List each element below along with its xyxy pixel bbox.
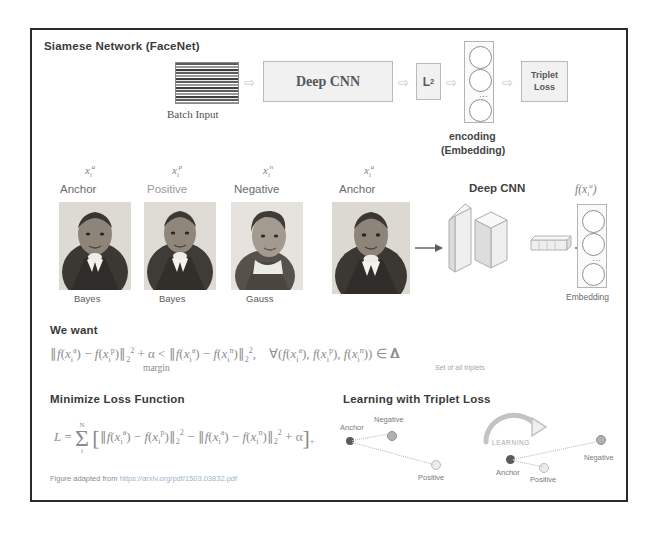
arrow-l2-to-encoding: ⇨ <box>446 76 457 89</box>
figure-title: Siamese Network (FaceNet) <box>44 40 200 52</box>
negative-portrait <box>231 202 303 290</box>
embedding-sublabel: (Embedding) <box>441 144 505 156</box>
batch-input-icon <box>175 62 239 104</box>
embedding-caption: Embedding <box>566 292 609 302</box>
we-want-heading: We want <box>50 324 98 336</box>
loss-equation: L = N Σ i [∥f(xia) − f(xip)∥22 − ∥f(xia)… <box>54 421 314 454</box>
before-positive-node <box>431 460 441 470</box>
embedding-unit <box>582 233 605 256</box>
encoder-input-role-label: Anchor <box>339 183 375 195</box>
triplet-loss-line2: Loss <box>534 82 555 93</box>
arrow-input-to-cnn: ⇨ <box>244 76 255 89</box>
after-anchor-label: Anchor <box>496 468 520 477</box>
triplet-after-diagram: Anchor Positive Negative <box>468 415 623 487</box>
embedding-output-variable: f(xia) <box>575 182 597 198</box>
loss-heading: Minimize Loss Function <box>50 393 185 405</box>
before-positive-label: Positive <box>418 473 444 482</box>
arrow-portrait-to-cnn <box>415 242 443 254</box>
positive-person-label: Bayes <box>159 293 185 304</box>
l2-subscript: 2 <box>430 77 434 86</box>
footer-prefix: Figure adapted from <box>50 474 120 483</box>
we-want-equation: ∥f(xia) − f(xip)∥22 + α < ∥f(xia) − f(xi… <box>50 346 400 364</box>
after-anchor-positive-link <box>513 460 543 467</box>
anchor-role-label: Anchor <box>60 183 96 195</box>
before-anchor-node <box>346 437 354 445</box>
margin-annotation: margin <box>143 363 170 373</box>
negative-variable: xin <box>263 163 273 178</box>
after-positive-node <box>539 463 549 473</box>
encoding-unit <box>469 46 492 69</box>
before-anchor-label: Anchor <box>340 423 364 432</box>
anchor-person-label: Bayes <box>74 293 100 304</box>
figure-canvas: Siamese Network (FaceNet) Batch Input ⇨ … <box>0 0 661 539</box>
set-of-triplets-annotation: Set of all triplets <box>435 364 485 371</box>
encoding-label: encoding <box>449 130 496 142</box>
embedding-unit <box>582 263 605 286</box>
triplet-loss-line1: Triplet <box>531 70 558 81</box>
l2-label: L <box>423 75 430 89</box>
anchor-variable: xia <box>85 163 95 178</box>
positive-variable: xip <box>172 163 182 178</box>
encoding-vector-box: ⋮ <box>464 41 494 123</box>
after-negative-label: Negative <box>584 453 614 462</box>
encoder-input-portrait <box>332 202 410 294</box>
encoding-unit <box>469 99 492 122</box>
positive-portrait <box>144 202 216 290</box>
encoder-input-variable: xia <box>364 163 374 178</box>
negative-role-label: Negative <box>234 183 279 195</box>
learning-heading: Learning with Triplet Loss <box>343 393 491 405</box>
anchor-portrait <box>59 202 131 290</box>
cnn-feature-volumes <box>445 202 585 282</box>
embedding-unit <box>582 210 605 233</box>
encoder-cnn-label: Deep CNN <box>469 182 525 194</box>
encoding-unit <box>469 69 492 92</box>
positive-role-label: Positive <box>147 183 187 195</box>
triplet-loss-box: Triplet Loss <box>521 61 568 102</box>
deep-cnn-box: Deep CNN <box>263 61 393 102</box>
before-anchor-negative-link <box>352 433 390 441</box>
arrow-cnn-to-l2: ⇨ <box>398 76 409 89</box>
arrow-encoding-to-loss: ⇨ <box>502 76 513 89</box>
before-negative-label: Negative <box>374 415 404 424</box>
figure-frame: Siamese Network (FaceNet) Batch Input ⇨ … <box>30 28 628 502</box>
figure-source-credit: Figure adapted from https://arxiv.org/pd… <box>50 474 237 483</box>
before-anchor-positive-link <box>352 442 433 465</box>
batch-input-label: Batch Input <box>167 108 219 120</box>
footer-source-link[interactable]: https://arxiv.org/pdf/1503.03832.pdf <box>120 474 237 483</box>
l2-norm-box: L2 <box>416 63 441 100</box>
negative-person-label: Gauss <box>246 293 273 304</box>
embedding-vector-box: ⋮ <box>577 204 607 288</box>
triplet-before-diagram: Anchor Negative Positive <box>343 415 483 487</box>
after-positive-label: Positive <box>530 475 556 484</box>
